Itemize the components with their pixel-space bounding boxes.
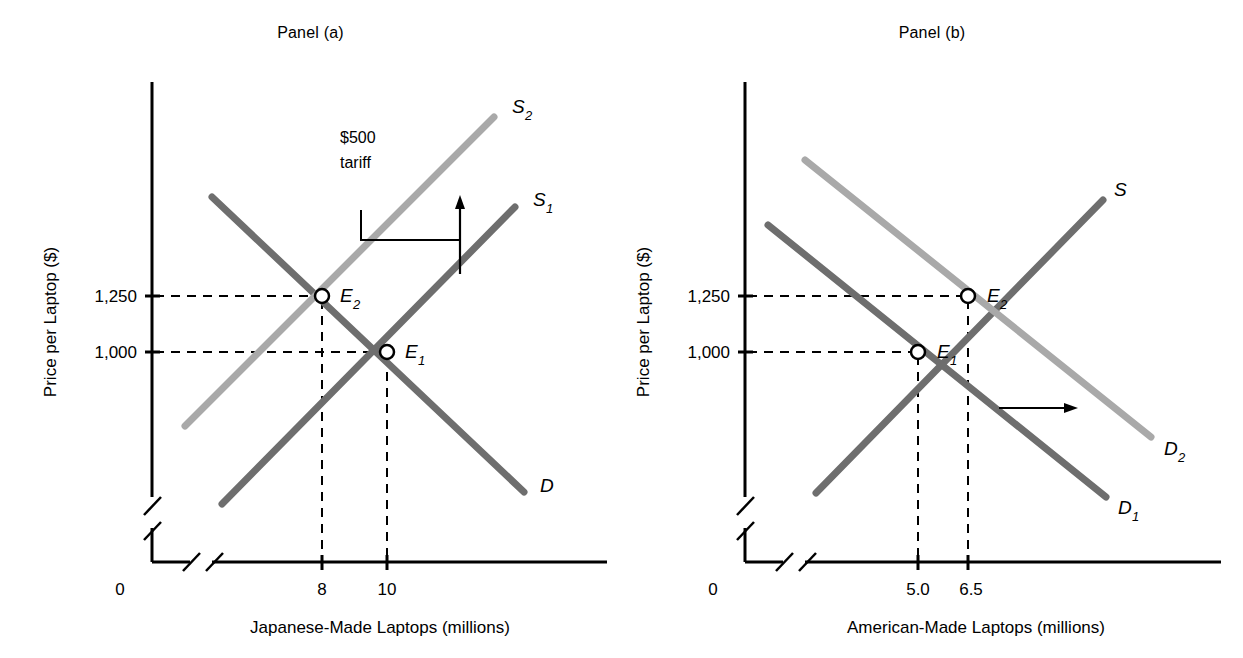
equilibrium-label-e1-sub-a: 1 bbox=[418, 353, 425, 368]
right-arrow-icon bbox=[1064, 403, 1078, 413]
equilibrium-label-e2-a: E bbox=[340, 285, 353, 306]
curve-label-s-b: S bbox=[1114, 179, 1127, 200]
y-axis-title-a: Price per Laptop ($) bbox=[41, 247, 60, 397]
panel-a: Panel (a) bbox=[0, 0, 621, 658]
curve-label-s2-sub-a: 2 bbox=[524, 108, 533, 123]
panel-b: Panel (b) bbox=[621, 0, 1243, 658]
x-axis-title-a: Japanese-Made Laptops (millions) bbox=[250, 618, 510, 637]
equilibrium-point-e2-b bbox=[961, 289, 975, 303]
curve-label-s2-a: S bbox=[512, 96, 525, 117]
curve-label-d2-sub-b: 2 bbox=[1177, 450, 1186, 465]
equilibrium-label-e1-a: E bbox=[405, 341, 418, 362]
tariff-annotation-line1-a: $500 bbox=[340, 129, 376, 146]
panel-a-plot: 1,250 1,000 8 10 0 Japanese-Made Laptops… bbox=[0, 0, 621, 658]
y-tick-label-1000-b: 1,000 bbox=[687, 343, 730, 362]
equilibrium-label-e2-sub-a: 2 bbox=[352, 297, 361, 312]
equilibrium-label-e1-sub-b: 1 bbox=[950, 353, 957, 368]
equilibrium-point-e1-a bbox=[380, 345, 394, 359]
equilibrium-point-e2-a bbox=[315, 289, 329, 303]
equilibrium-label-e2-b: E bbox=[987, 285, 1000, 306]
curve-label-d1-sub-b: 1 bbox=[1132, 509, 1139, 524]
x-tick-label-8-a: 8 bbox=[317, 580, 326, 599]
figure-root: Panel (a) bbox=[0, 0, 1243, 658]
curve-label-s1-a: S bbox=[533, 189, 546, 210]
y-tick-label-1250-b: 1,250 bbox=[687, 287, 730, 306]
y-axis-break-slash-1-b bbox=[737, 497, 754, 515]
x-tick-label-10-a: 10 bbox=[378, 580, 397, 599]
equilibrium-label-e2-sub-b: 2 bbox=[999, 297, 1008, 312]
up-arrow-icon bbox=[455, 195, 465, 209]
curve-label-d1-b: D bbox=[1118, 497, 1132, 518]
equilibrium-label-e1-b: E bbox=[937, 341, 950, 362]
x-axis-title-b: American-Made Laptops (millions) bbox=[847, 618, 1105, 637]
curve-label-d-a: D bbox=[540, 475, 554, 496]
tariff-annotation-line2-a: tariff bbox=[340, 154, 371, 171]
x-tick-label-6-5-b: 6.5 bbox=[959, 580, 983, 599]
origin-label-b: 0 bbox=[708, 580, 717, 599]
curve-label-d2-b: D bbox=[1164, 438, 1178, 459]
supply-curve-b bbox=[816, 200, 1103, 493]
curve-label-s1-sub-a: 1 bbox=[546, 201, 553, 216]
y-axis-title-b: Price per Laptop ($) bbox=[634, 247, 653, 397]
y-tick-label-1250-a: 1,250 bbox=[94, 287, 137, 306]
y-axis-break-slash-1-a bbox=[144, 497, 161, 515]
equilibrium-point-e1-b bbox=[911, 345, 925, 359]
origin-label-a: 0 bbox=[115, 580, 124, 599]
panel-b-plot: 1,250 1,000 5.0 6.5 0 American-Made Lapt… bbox=[621, 0, 1243, 658]
y-tick-label-1000-a: 1,000 bbox=[94, 343, 137, 362]
x-tick-label-5-0-b: 5.0 bbox=[906, 580, 930, 599]
